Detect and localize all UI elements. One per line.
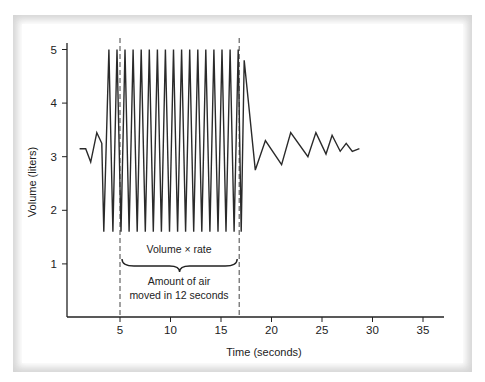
x-tick-label: 15 <box>215 324 228 336</box>
brace-label-top: Volume × rate <box>146 243 211 255</box>
x-tick-label: 35 <box>417 324 430 336</box>
x-axis-title: Time (seconds) <box>226 346 301 358</box>
x-tick-label: 10 <box>164 324 177 336</box>
volume-trace-line <box>80 50 360 232</box>
x-tick-label: 20 <box>265 324 278 336</box>
brace-label-bottom-1: Amount of air <box>148 275 211 287</box>
y-tick-label: 2 <box>51 204 57 216</box>
y-tick-label: 3 <box>51 151 57 163</box>
x-tick-label: 25 <box>316 324 329 336</box>
y-axis-title: Volume (liters) <box>26 147 38 217</box>
data-series <box>80 50 360 232</box>
x-tick-label: 5 <box>117 324 123 336</box>
y-tick-label: 1 <box>51 258 57 270</box>
brace-label-bottom-2: moved in 12 seconds <box>129 289 228 301</box>
y-tick-label: 4 <box>51 97 58 109</box>
volume-time-chart: 123455101520253035 Time (seconds) Volume… <box>0 0 485 382</box>
curly-brace <box>122 259 237 272</box>
y-tick-label: 5 <box>51 44 57 56</box>
x-tick-label: 30 <box>366 324 379 336</box>
